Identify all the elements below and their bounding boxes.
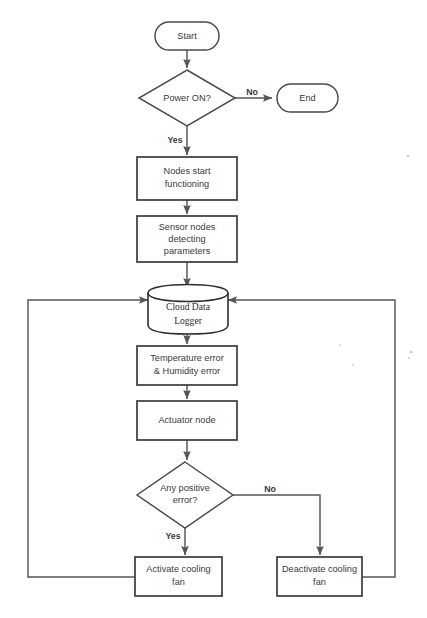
cloud-logger-label-line1: Cloud Data [166,301,211,312]
actuator-label: Actuator node [158,415,215,425]
any-positive-error-label-line1: Any positive [160,483,210,493]
edge-label-error-no: No [264,484,276,494]
flowchart-canvas: Start Power ON? End Nodes start function… [0,0,427,618]
deactivate-fan-label-line1: Deactivate cooling [282,564,357,574]
node-error-calculation[interactable]: Temperature error & Humidity error [137,346,237,385]
node-activate-cooling-fan[interactable]: Activate cooling fan [135,557,222,596]
edge-deactivate-feedback-to-cloud [228,300,395,577]
edge-label-power-no: No [246,87,258,97]
sensor-nodes-label-line3: parameters [164,246,211,256]
nodes-start-label-line1: Nodes start [164,166,211,176]
flowchart-diagram: Start Power ON? End Nodes start function… [0,0,427,618]
nodes-start-label-line2: functioning [165,179,209,189]
node-power-on-decision[interactable]: Power ON? [139,70,235,126]
node-nodes-start-functioning[interactable]: Nodes start functioning [137,157,237,200]
node-end[interactable]: End [277,84,338,112]
sensor-nodes-label-line1: Sensor nodes [159,222,216,232]
edge-decision-no-to-deactivate [233,495,320,555]
edge-activate-feedback-to-cloud [28,300,148,577]
node-cloud-data-logger[interactable]: Cloud Data Logger [148,285,228,335]
node-start[interactable]: Start [155,22,219,50]
start-label: Start [177,31,197,41]
edge-label-power-yes: Yes [167,135,182,145]
error-calc-label-line1: Temperature error [150,353,224,363]
power-on-label: Power ON? [163,93,211,103]
error-calc-label-line2: & Humidity error [154,366,220,376]
node-sensor-nodes[interactable]: Sensor nodes detecting parameters [137,216,237,262]
node-actuator[interactable]: Actuator node [137,401,237,440]
sensor-nodes-label-line2: detecting [168,234,205,244]
deactivate-fan-label-line2: fan [313,577,326,587]
any-positive-error-label-line2: error? [173,495,198,505]
node-any-positive-error-decision[interactable]: Any positive error? [137,462,233,528]
end-label: End [299,93,315,103]
scan-specks [339,155,413,366]
cloud-logger-label-line2: Logger [174,315,203,326]
node-deactivate-cooling-fan[interactable]: Deactivate cooling fan [277,557,362,596]
edge-label-error-yes: Yes [165,531,180,541]
activate-fan-label-line1: Activate cooling [146,564,210,574]
activate-fan-label-line2: fan [172,577,185,587]
